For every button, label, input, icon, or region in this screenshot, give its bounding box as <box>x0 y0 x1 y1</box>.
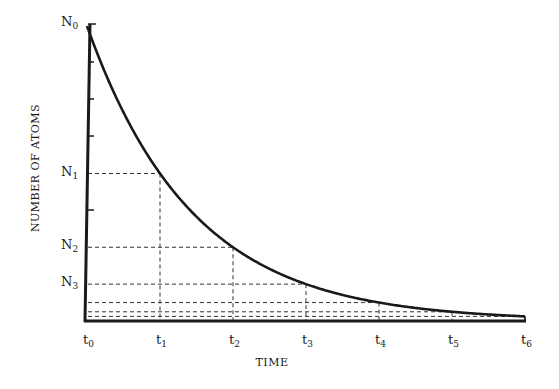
x-tick-label: t2 <box>229 332 240 349</box>
axes <box>84 24 526 322</box>
y-tick-label: N1 <box>61 164 78 181</box>
y-tick-labels: N0N1N2N3 <box>61 14 78 291</box>
decay-curve-path <box>87 26 525 316</box>
x-axis-title: TIME <box>256 356 289 369</box>
y-tick-label: N0 <box>61 14 78 31</box>
y-tick-label: N2 <box>61 237 78 254</box>
x-tick-labels: t0t1t2t3t4t5t6 <box>83 332 532 349</box>
dashed-guide-lines <box>88 174 525 322</box>
x-tick-label: t4 <box>375 332 386 349</box>
x-tick-label: t1 <box>156 332 167 349</box>
x-tick-label: t3 <box>302 332 313 349</box>
x-tick-label: t6 <box>521 332 532 349</box>
x-tick-label: t0 <box>83 332 94 349</box>
y-tick-label: N3 <box>61 274 78 291</box>
decay-chart: t0t1t2t3t4t5t6 N0N1N2N3 TIME NUMBER OF A… <box>0 0 559 389</box>
x-tick-label: t5 <box>448 332 459 349</box>
y-axis-title: NUMBER OF ATOMS <box>29 104 42 232</box>
